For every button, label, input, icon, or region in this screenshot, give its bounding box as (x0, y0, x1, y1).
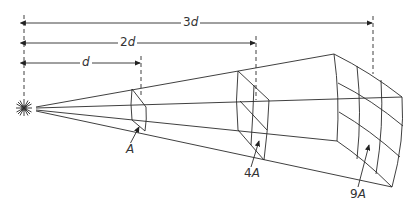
ray-bottom (36, 111, 392, 187)
area-patch-9A (334, 54, 403, 187)
area-patch-A (131, 89, 146, 131)
ray-lower (36, 110, 337, 141)
label-9A: 9A (348, 188, 368, 200)
inverse-square-diagram: 3d 2d d A 4A 9A (0, 0, 418, 211)
label-d: d (80, 56, 92, 68)
ray-upper (36, 97, 402, 108)
area-patch-4A (237, 71, 270, 160)
label-3d: 3d (181, 16, 200, 28)
leader-4A (251, 141, 259, 167)
diagram-lines (0, 0, 418, 211)
label-4A: 4A (242, 167, 262, 179)
light-source-icon (16, 100, 32, 116)
label-2d: 2d (118, 36, 137, 48)
label-A: A (124, 143, 136, 155)
